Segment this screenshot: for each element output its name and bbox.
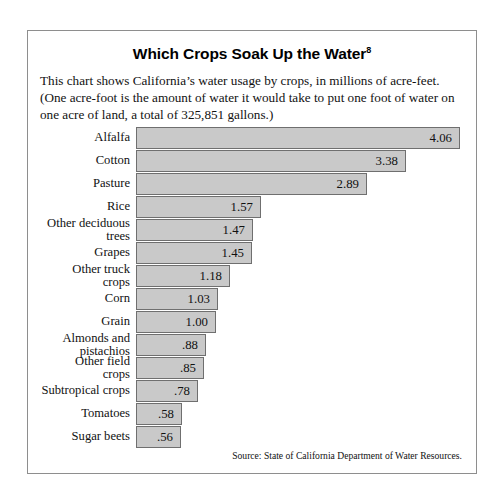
bar: 4.06 [136,127,460,149]
bar-row: Rice1.57 [28,196,476,218]
category-label: Rice [28,196,136,218]
bar: 1.57 [136,196,261,218]
bar-value-label: .88 [182,338,205,353]
bar-row: Pasture2.89 [28,173,476,195]
bar-track: 4.06 [136,127,476,149]
bar-track: 2.89 [136,173,476,195]
category-label: Tomatoes [28,403,136,425]
bar-track: 1.45 [136,242,476,264]
bar-row: Tomatoes.58 [28,403,476,425]
bar-value-label: 1.00 [186,315,215,330]
bar: .58 [136,403,182,425]
bar-row: Sugar beets.56 [28,426,476,448]
category-label: Corn [28,288,136,310]
bar-track: .78 [136,380,476,402]
bar: 1.45 [136,242,252,264]
category-label: Other truck crops [28,265,136,287]
bar-row: Other field crops.85 [28,357,476,379]
bar-value-label: 1.03 [188,292,217,307]
page-title: Which Crops Soak Up the Water8 [28,45,476,63]
category-label: Alfalfa [28,127,136,149]
bar-value-label: 1.47 [223,223,252,238]
bar-track: 1.00 [136,311,476,333]
bar-value-label: .78 [174,384,197,399]
bar: 1.00 [136,311,216,333]
bar-value-label: 3.38 [376,154,405,169]
bar-track: 1.18 [136,265,476,287]
bar-value-label: .56 [157,430,180,445]
bar-row: Almonds and pistachios.88 [28,334,476,356]
bar-track: .56 [136,426,476,448]
category-label: Grain [28,311,136,333]
title-footnote-marker: 8 [366,45,371,55]
bar-value-label: .58 [158,407,181,422]
bar-row: Corn1.03 [28,288,476,310]
bar-track: 1.47 [136,219,476,241]
bar-row: Grapes1.45 [28,242,476,264]
chart-frame: Which Crops Soak Up the Water8 This char… [27,30,477,474]
category-label: Cotton [28,150,136,172]
category-label: Subtropical crops [28,380,136,402]
category-label: Grapes [28,242,136,264]
bar-track: .85 [136,357,476,379]
category-label: Sugar beets [28,426,136,448]
bar-row: Alfalfa4.06 [28,127,476,149]
category-label: Other deciduous trees [28,219,136,241]
bar-row: Other deciduous trees1.47 [28,219,476,241]
bar-track: 1.57 [136,196,476,218]
bar-row: Grain1.00 [28,311,476,333]
bar-value-label: 2.89 [337,177,366,192]
chart-title-text: Which Crops Soak Up the Water [133,45,366,62]
category-label: Other field crops [28,357,136,379]
bar-chart-plot: Alfalfa4.06Cotton3.38Pasture2.89Rice1.57… [28,127,476,449]
bar-track: .88 [136,334,476,356]
bar-row: Cotton3.38 [28,150,476,172]
bar: .78 [136,380,198,402]
bar-value-label: 4.06 [430,131,459,146]
bar: 3.38 [136,150,406,172]
bar-value-label: 1.57 [231,200,260,215]
bar: .88 [136,334,206,356]
bar-value-label: .85 [180,361,203,376]
bar: .56 [136,426,181,448]
bar-track: .58 [136,403,476,425]
bar-value-label: 1.18 [200,269,229,284]
bar: 2.89 [136,173,367,195]
category-label: Pasture [28,173,136,195]
bar: .85 [136,357,204,379]
bar: 1.03 [136,288,218,310]
bar-track: 1.03 [136,288,476,310]
bar-row: Subtropical crops.78 [28,380,476,402]
bar-track: 3.38 [136,150,476,172]
bar: 1.47 [136,219,253,241]
bar-value-label: 1.45 [222,246,251,261]
bar: 1.18 [136,265,230,287]
bar-row: Other truck crops1.18 [28,265,476,287]
chart-page: Which Crops Soak Up the Water8 This char… [0,0,503,504]
source-note: Source: State of California Department o… [28,450,462,461]
category-label: Almonds and pistachios [28,334,136,356]
chart-subtitle: This chart shows California’s water usag… [40,72,464,123]
